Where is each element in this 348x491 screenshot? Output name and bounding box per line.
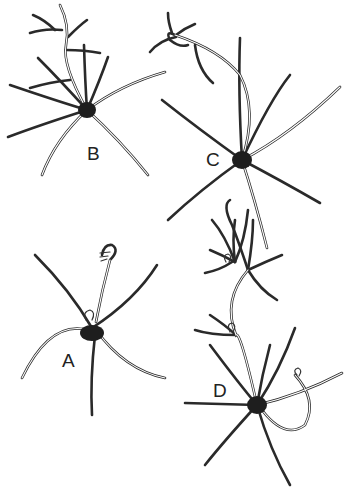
figure-c-filaments [150, 13, 340, 248]
figure-a-label: A [62, 350, 75, 371]
figure-d-body [247, 396, 267, 414]
figure-d: D [185, 200, 342, 485]
figure-d-filaments [185, 200, 342, 485]
figure-d-label: D [213, 380, 227, 401]
figure-b-label: B [87, 143, 100, 164]
figure-c: C [150, 13, 340, 248]
figure-b-body [78, 102, 96, 118]
figure-c-label: C [206, 149, 220, 170]
figure-a-body [80, 325, 104, 341]
figure-b: B [8, 5, 165, 175]
illustration: B C [0, 0, 348, 491]
figure-c-body [232, 151, 252, 169]
figure-a: A [22, 245, 165, 415]
